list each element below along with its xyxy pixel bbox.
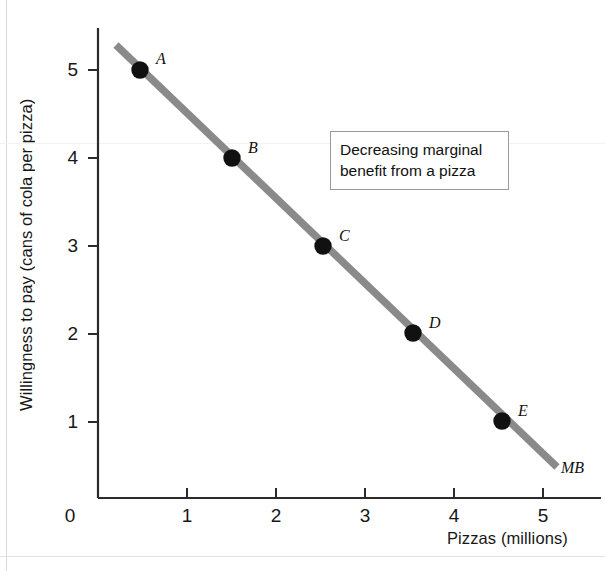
- x-tick-label-5: 5: [530, 505, 556, 527]
- x-axis-ticks: [187, 488, 543, 498]
- x-tick-label-1: 1: [174, 505, 200, 527]
- annotation-text: Decreasing marginal benefit from a pizza: [340, 140, 499, 181]
- plot-area: [0, 0, 605, 571]
- y-tick-label-3: 3: [52, 235, 78, 257]
- y-tick-label-2: 2: [52, 323, 78, 345]
- data-point-a: [131, 61, 148, 78]
- x-tick-label-3: 3: [352, 505, 378, 527]
- x-tick-label-4: 4: [441, 505, 467, 527]
- y-tick-label-5: 5: [52, 59, 78, 81]
- marginal-benefit-line: [116, 45, 557, 467]
- y-axis-ticks: [88, 70, 98, 422]
- y-tick-label-4: 4: [52, 147, 78, 169]
- data-point-d: [404, 324, 421, 341]
- point-label-a: A: [156, 50, 166, 68]
- point-label-d: D: [429, 314, 441, 332]
- curve-label-mb: MB: [561, 459, 584, 477]
- y-axis-title: Willingness to pay (cans of cola per piz…: [14, 40, 38, 470]
- annotation-box: Decreasing marginal benefit from a pizza: [330, 131, 509, 190]
- marginal-benefit-chart: 5 4 3 2 1 0 1 2 3 4 5 A B C D E MB Willi…: [0, 0, 605, 571]
- x-tick-label-2: 2: [263, 505, 289, 527]
- point-label-b: B: [248, 139, 258, 157]
- data-point-c: [314, 237, 331, 254]
- x-axis-title: Pizzas (millions): [447, 529, 568, 548]
- data-point-e: [493, 412, 510, 429]
- x-tick-label-0: 0: [57, 505, 83, 527]
- point-label-e: E: [518, 402, 528, 420]
- data-point-b: [223, 149, 240, 166]
- point-label-c: C: [339, 227, 350, 245]
- y-tick-label-1: 1: [52, 411, 78, 433]
